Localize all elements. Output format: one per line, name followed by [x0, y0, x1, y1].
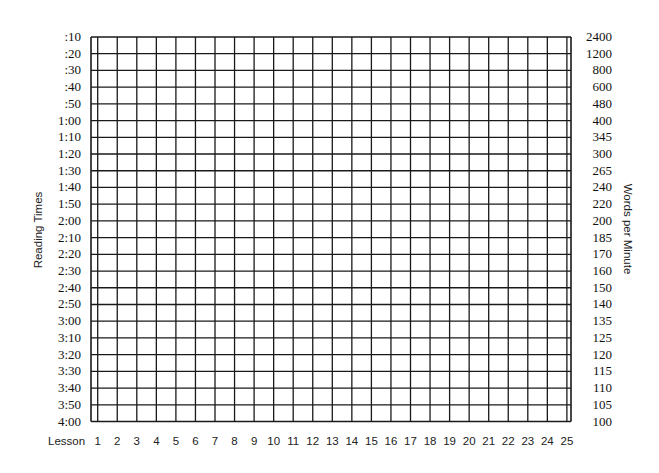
lesson-axis-label: Lesson	[48, 434, 85, 448]
reading-time-tick: 3:30	[0, 364, 81, 378]
reading-time-tick: 3:20	[0, 348, 81, 362]
reading-time-tick: 3:00	[0, 314, 81, 328]
words-per-minute-tick: 135	[578, 314, 612, 328]
words-per-minute-tick: 240	[578, 180, 612, 194]
words-per-minute-tick: 100	[578, 415, 612, 429]
reading-time-tick: 3:40	[0, 381, 81, 395]
words-per-minute-tick: 400	[578, 114, 612, 128]
words-per-minute-tick: 115	[578, 364, 612, 378]
reading-time-tick: 3:50	[0, 398, 81, 412]
reading-time-tick: 2:50	[0, 297, 81, 311]
words-per-minute-tick: 110	[578, 381, 612, 395]
words-per-minute-tick: 300	[578, 147, 612, 161]
words-per-minute-tick: 170	[578, 247, 612, 261]
words-per-minute-tick: 600	[578, 80, 612, 94]
lesson-tick: 25	[555, 434, 579, 448]
words-per-minute-tick: 480	[578, 97, 612, 111]
words-per-minute-tick: 220	[578, 197, 612, 211]
reading-time-tick: :30	[0, 63, 81, 77]
words-per-minute-tick: 160	[578, 264, 612, 278]
reading-time-tick: :40	[0, 80, 81, 94]
reading-time-tick: 2:40	[0, 281, 81, 295]
reading-time-tick: 1:20	[0, 147, 81, 161]
reading-time-tick: 1:30	[0, 164, 81, 178]
words-per-minute-tick: 1200	[578, 47, 612, 61]
reading-time-tick: 1:00	[0, 114, 81, 128]
words-per-minute-tick: 345	[578, 130, 612, 144]
words-per-minute-tick: 150	[578, 281, 612, 295]
graph-grid	[0, 0, 659, 473]
reading-time-tick: :10	[0, 30, 81, 44]
words-per-minute-tick: 120	[578, 348, 612, 362]
reading-time-tick: 3:10	[0, 331, 81, 345]
words-per-minute-tick: 140	[578, 297, 612, 311]
words-per-minute-tick: 125	[578, 331, 612, 345]
reading-time-tick: :20	[0, 47, 81, 61]
words-per-minute-tick: 800	[578, 63, 612, 77]
reading-time-tick: 4:00	[0, 415, 81, 429]
words-per-minute-tick: 2400	[578, 30, 612, 44]
words-per-minute-tick: 265	[578, 164, 612, 178]
words-per-minute-tick: 185	[578, 231, 612, 245]
words-per-minute-title: Words per Minute	[622, 184, 634, 275]
reading-times-title: Reading Times	[32, 192, 44, 269]
reading-time-tick: :50	[0, 97, 81, 111]
reading-time-tick: 1:10	[0, 130, 81, 144]
words-per-minute-tick: 105	[578, 398, 612, 412]
words-per-minute-tick: 200	[578, 214, 612, 228]
